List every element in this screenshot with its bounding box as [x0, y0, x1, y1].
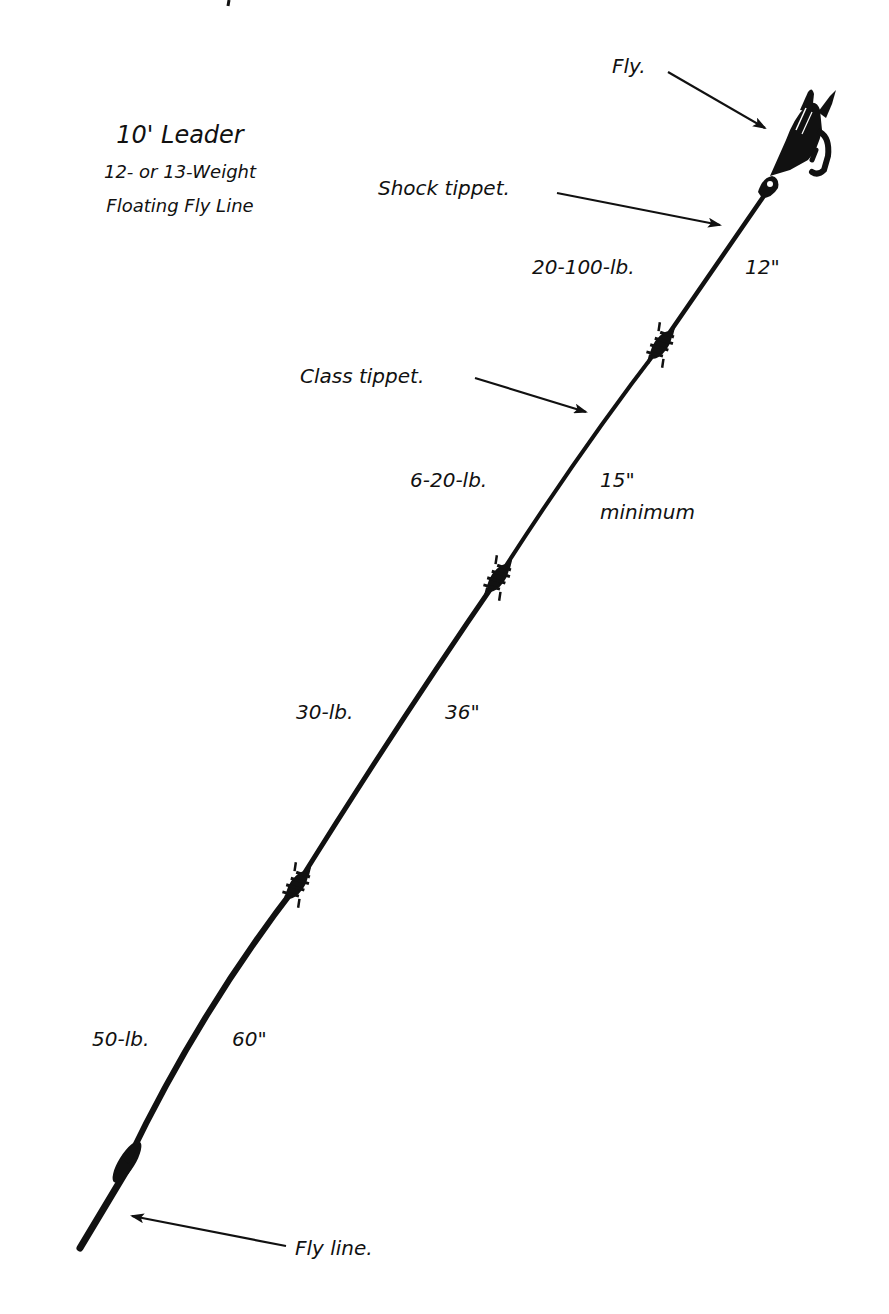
class-tippet-length-note: minimum [600, 500, 695, 524]
shock-tippet-strength: 20-100-lb. [532, 255, 635, 279]
class-tippet-line [498, 345, 661, 578]
class-tippet-arrow [475, 378, 586, 412]
fly-label: Fly. [612, 54, 646, 78]
title-line-weight: 12- or 13-Weight [60, 160, 300, 184]
fly-arrow [668, 72, 765, 128]
diagram-title-block: 10' Leader 12- or 13-Weight Floating Fly… [60, 120, 300, 228]
fly-line-label: Fly line. [295, 1236, 373, 1260]
fly-icon [758, 89, 836, 198]
fly-line-arrow [132, 1216, 286, 1246]
class-tippet-length: 15" [600, 468, 635, 492]
section-30lb-length: 36" [445, 700, 480, 724]
shock-tippet-arrow [557, 193, 720, 225]
knot-icon [474, 552, 522, 604]
butt-section-50lb [128, 885, 297, 1160]
section-30lb [297, 578, 498, 885]
butt-section-strength: 50-lb. [92, 1027, 149, 1051]
top-mark [228, 0, 229, 6]
knot-icon [637, 319, 685, 371]
butt-section-length: 60" [232, 1027, 267, 1051]
class-tippet-label: Class tippet. [300, 364, 424, 388]
shock-tippet-length: 12" [745, 255, 780, 279]
title-main: 10' Leader [60, 120, 300, 150]
title-line-type: Floating Fly Line [60, 194, 300, 218]
section-30lb-strength: 30-lb. [296, 700, 353, 724]
class-tippet-strength: 6-20-lb. [410, 468, 487, 492]
shock-tippet-label: Shock tippet. [378, 176, 510, 200]
